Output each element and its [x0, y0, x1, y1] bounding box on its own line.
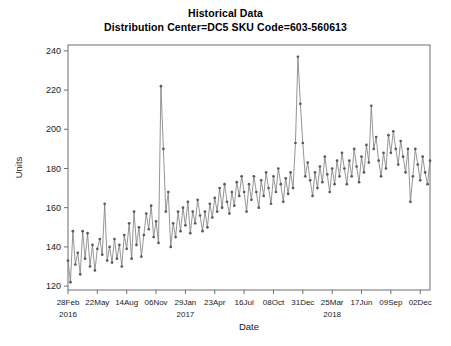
data-point — [125, 247, 128, 250]
data-point — [157, 242, 160, 245]
data-point — [204, 210, 207, 213]
data-point — [96, 247, 99, 250]
data-point — [79, 273, 82, 276]
data-point — [385, 167, 388, 170]
data-point — [174, 236, 177, 239]
data-point — [226, 200, 229, 203]
data-point — [321, 181, 324, 184]
data-point — [248, 183, 251, 186]
data-point — [424, 171, 427, 174]
data-point — [187, 200, 190, 203]
data-point — [377, 159, 380, 162]
data-point — [412, 175, 415, 178]
data-point — [297, 55, 300, 58]
data-point — [394, 148, 397, 151]
data-point — [299, 102, 302, 105]
data-point — [392, 130, 395, 133]
data-point — [101, 253, 104, 256]
data-point — [382, 151, 385, 154]
data-point — [341, 151, 344, 154]
data-point — [213, 197, 216, 200]
data-point — [128, 222, 131, 225]
data-series-units — [67, 55, 432, 283]
x-axis-year-label: 2016 — [59, 310, 77, 319]
data-point — [316, 187, 319, 190]
data-point — [348, 159, 351, 162]
data-point — [309, 179, 312, 182]
x-tick-label: 17Jun — [351, 298, 373, 307]
data-point — [111, 261, 114, 264]
data-point — [350, 175, 353, 178]
data-point — [179, 230, 182, 233]
data-point — [94, 269, 97, 272]
data-point — [231, 191, 234, 194]
data-point — [306, 161, 309, 164]
data-point — [169, 246, 172, 249]
data-point — [372, 148, 375, 151]
data-point — [414, 148, 417, 151]
data-point — [182, 206, 185, 209]
data-point — [194, 222, 197, 225]
data-point — [421, 155, 424, 158]
data-point — [116, 257, 119, 260]
data-point — [130, 257, 133, 260]
data-point — [275, 191, 278, 194]
x-tick-label: 06Nov — [144, 298, 167, 307]
data-point — [426, 183, 429, 186]
data-point — [314, 171, 317, 174]
data-point — [86, 232, 89, 235]
data-point — [162, 148, 165, 151]
data-point — [164, 210, 167, 213]
data-point — [211, 216, 214, 219]
data-point — [235, 181, 238, 184]
x-tick-label: 23Apr — [204, 298, 226, 307]
data-point — [216, 210, 219, 213]
data-point — [69, 281, 72, 284]
data-point — [336, 159, 339, 162]
data-point — [319, 165, 322, 168]
y-tick-label: 140 — [46, 242, 61, 252]
x-axis-label: Date — [239, 321, 259, 332]
data-point — [331, 167, 334, 170]
data-point — [147, 228, 150, 231]
data-point — [250, 198, 253, 201]
data-point — [267, 187, 270, 190]
y-tick-label: 120 — [46, 281, 61, 291]
data-point — [243, 191, 246, 194]
data-point — [301, 142, 304, 145]
plot-area: 120140160180200220240 28Feb22May14Aug06N… — [0, 0, 451, 346]
data-point — [98, 238, 101, 241]
data-point — [419, 179, 422, 182]
data-point — [191, 210, 194, 213]
data-point — [380, 175, 383, 178]
data-point — [206, 226, 209, 229]
data-point — [345, 183, 348, 186]
data-point — [118, 244, 121, 247]
data-point — [292, 187, 295, 190]
x-tick-label: 14Aug — [115, 298, 138, 307]
data-point — [358, 181, 361, 184]
data-point — [277, 167, 280, 170]
data-point — [76, 251, 79, 254]
x-axis-ticks: 28Feb22May14Aug06Nov29Jan23Apr16Jul08Oct… — [57, 290, 432, 319]
data-point — [123, 234, 126, 237]
data-point — [152, 236, 155, 239]
data-point — [142, 234, 145, 237]
data-point — [245, 210, 248, 213]
data-point — [402, 155, 405, 158]
data-point — [238, 195, 241, 198]
x-tick-label: 02Dec — [409, 298, 432, 307]
data-point — [399, 140, 402, 143]
data-point — [120, 265, 123, 268]
data-point — [265, 171, 268, 174]
data-point — [282, 200, 285, 203]
data-point — [135, 244, 138, 247]
data-point — [91, 244, 94, 247]
data-point — [333, 183, 336, 186]
data-point — [201, 230, 204, 233]
data-point — [228, 212, 231, 215]
data-point — [360, 155, 363, 158]
data-point — [172, 222, 175, 225]
data-point — [409, 200, 412, 203]
x-axis-year-label: 2018 — [323, 310, 341, 319]
